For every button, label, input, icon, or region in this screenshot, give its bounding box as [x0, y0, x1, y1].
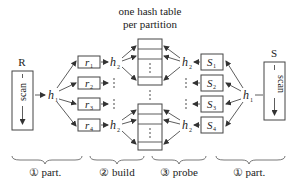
hash-h2-left-bottom: h 2 — [110, 118, 120, 133]
svg-text:h: h — [243, 88, 249, 102]
svg-text:1: 1 — [250, 97, 253, 103]
phase-label-build: ② build — [99, 166, 135, 178]
partition-r2: r 2 — [78, 77, 100, 90]
svg-text:4: 4 — [213, 126, 216, 132]
partition-s4: S 4 — [201, 117, 223, 133]
phase-label-part-left: ① part. — [29, 166, 62, 178]
partition-r4: r 4 — [78, 119, 100, 132]
phase-label-probe: ③ probe — [160, 166, 198, 178]
partition-r1: r 1 — [78, 56, 100, 69]
relation-s-box: scan — [264, 62, 287, 120]
svg-text:4: 4 — [90, 126, 93, 132]
partition-s3: S 3 — [201, 96, 223, 112]
hash-h1-right: h 1 — [243, 88, 253, 103]
svg-text:h: h — [110, 55, 116, 69]
brace-part-left — [12, 156, 82, 164]
hash-table-bottom — [138, 104, 162, 150]
brace-build — [90, 156, 144, 164]
svg-text:h: h — [182, 55, 188, 69]
svg-text:2: 2 — [90, 84, 93, 90]
phase-label-part-right: ① part. — [233, 166, 266, 178]
svg-text:2: 2 — [117, 64, 120, 70]
svg-text:2: 2 — [189, 127, 192, 133]
svg-text:h: h — [110, 118, 116, 132]
hash-table-top — [138, 39, 162, 85]
hash-h1-left: h 1 — [48, 88, 58, 103]
svg-text:1: 1 — [90, 63, 93, 69]
title-line-1: one hash table — [119, 5, 182, 17]
svg-text:h: h — [48, 88, 54, 102]
brace-part-right — [216, 156, 285, 164]
relation-r-label: R — [18, 56, 26, 68]
radix-hash-join-diagram: one hash table per partition R scan h 1 … — [0, 0, 296, 191]
hash-h2-right-top: h 2 — [182, 55, 192, 70]
svg-text:3: 3 — [213, 105, 216, 111]
brace-probe — [152, 156, 206, 164]
ellipsis-right — [185, 78, 187, 109]
hash-h2-right-bottom: h 2 — [182, 118, 192, 133]
relation-s-label: S — [271, 47, 277, 59]
svg-text:1: 1 — [213, 63, 216, 69]
partition-s1: S 1 — [201, 54, 223, 70]
svg-text:2: 2 — [213, 84, 216, 90]
title-line-2: per partition — [123, 18, 178, 30]
hash-h2-left-top: h 2 — [110, 55, 120, 70]
relation-r-box: scan — [12, 71, 33, 130]
svg-text:2: 2 — [117, 127, 120, 133]
partition-r3: r 3 — [78, 98, 100, 111]
ellipsis-center — [149, 90, 151, 100]
svg-text:2: 2 — [189, 64, 192, 70]
ellipsis-left — [113, 78, 115, 109]
svg-text:3: 3 — [90, 105, 93, 111]
scan-label-left: scan — [17, 83, 28, 101]
partition-s2: S 2 — [201, 75, 223, 91]
scan-label-right: scan — [276, 75, 287, 93]
svg-text:h: h — [182, 118, 188, 132]
